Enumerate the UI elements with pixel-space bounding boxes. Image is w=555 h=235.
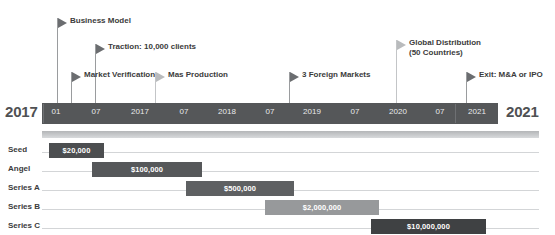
round-label-series-c: Series C: [8, 221, 40, 230]
milestone-label: 3 Foreign Markets: [302, 70, 370, 80]
round-bar-angel[interactable]: $100,000: [92, 162, 202, 177]
axis-tick-3: 07: [179, 107, 188, 116]
startup-timeline-chart: Business Model Traction: 10,000 clients …: [0, 0, 555, 235]
milestone-label: Business Model: [70, 16, 131, 26]
round-label-angel: Angel: [8, 164, 30, 173]
flag-banner-icon: [58, 18, 67, 28]
axis-end-year: 2021: [506, 103, 539, 120]
round-value-label: $20,000: [63, 146, 91, 155]
axis-tick-6: 2019: [303, 107, 321, 116]
flag-banner-icon: [72, 72, 81, 82]
axis-tick-4: 2018: [218, 107, 236, 116]
round-bar-seed[interactable]: $20,000: [49, 143, 104, 158]
axis-tick-0: 01: [51, 107, 60, 116]
flag-banner-icon: [290, 72, 299, 82]
axis-tick-5: 07: [265, 107, 274, 116]
axis-tick-separator: [455, 104, 456, 123]
milestone-label: Global Distribution: [409, 38, 481, 48]
rounds-top-rail: [42, 131, 539, 138]
axis-tick-8: 2020: [389, 107, 407, 116]
round-value-label: $2,000,000: [303, 203, 342, 212]
round-value-label: $100,000: [131, 165, 163, 174]
axis-tick-separator: [43, 104, 44, 123]
axis-tick-9: 07: [435, 107, 444, 116]
round-bar-series-c[interactable]: $10,000,000: [371, 219, 486, 234]
round-baseline: [42, 152, 539, 153]
flag-banner-icon: [156, 72, 165, 82]
milestone-label-line2: (50 Countries): [409, 48, 463, 58]
round-label-series-a: Series A: [8, 183, 40, 192]
milestone-label: Mas Production: [168, 70, 228, 80]
axis-tick-2: 2017: [131, 107, 149, 116]
axis-start-year: 2017: [5, 103, 38, 120]
axis-tick-7: 07: [350, 107, 359, 116]
round-bar-series-a[interactable]: $500,000: [186, 181, 294, 196]
milestone-label: Traction: 10,000 clients: [108, 42, 196, 52]
round-label-seed: Seed: [8, 145, 27, 154]
round-bar-series-b[interactable]: $2,000,000: [265, 200, 379, 215]
milestone-label: Market Verification: [84, 70, 155, 80]
axis-tick-10: 2021: [468, 107, 486, 116]
flag-banner-icon: [467, 72, 476, 82]
flag-pole: [57, 18, 58, 105]
milestone-label: Exit: M&A or IPO: [479, 70, 543, 80]
axis-tick-1: 07: [91, 107, 100, 116]
round-value-label: $10,000,000: [407, 222, 450, 231]
round-label-series-b: Series B: [8, 202, 40, 211]
flag-banner-icon: [96, 44, 105, 54]
round-value-label: $500,000: [224, 184, 256, 193]
flag-banner-icon: [397, 40, 406, 50]
